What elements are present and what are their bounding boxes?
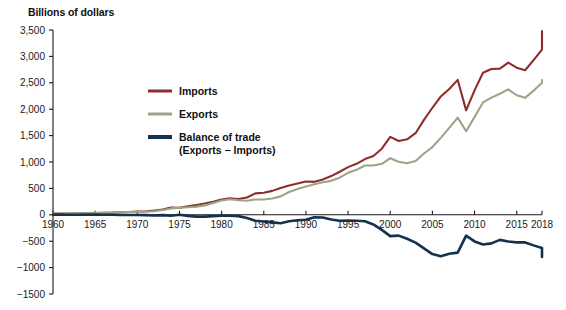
- legend-label: Imports: [179, 85, 218, 97]
- y-axis-tick-label: 1,500: [20, 130, 45, 141]
- legend-sublabel: (Exports − Imports): [179, 144, 276, 156]
- x-axis-tick-label: 2015: [506, 219, 529, 230]
- x-axis-tick-label: 1970: [126, 219, 149, 230]
- series-line-exports: [53, 80, 542, 213]
- y-axis-tick-label: 500: [28, 183, 45, 194]
- x-axis-tick-label: 2000: [379, 219, 402, 230]
- chart-container: Billions of dollars 3,5003,0002,5002,000…: [0, 0, 566, 310]
- x-axis-tick-label: 2005: [421, 219, 444, 230]
- x-axis-tick-label: 1975: [168, 219, 191, 230]
- x-axis-tick-label: 2010: [463, 219, 486, 230]
- y-axis-tick-label: 3,500: [20, 25, 45, 36]
- y-axis-tick-label: −500: [22, 236, 45, 247]
- y-axis-tick-label: −1500: [17, 289, 46, 300]
- y-axis-tick-label: 2,500: [20, 77, 45, 88]
- x-axis-tick-label: 1965: [84, 219, 107, 230]
- y-axis-tick-label: 1,000: [20, 157, 45, 168]
- trade-balance-line-chart: 3,5003,0002,5002,0001,5001,0005000−500−1…: [0, 0, 566, 310]
- y-axis-tick-group: 3,5003,0002,5002,0001,5001,0005000−500−1…: [17, 25, 53, 300]
- y-axis-tick-label: 3,000: [20, 51, 45, 62]
- x-axis-tick-label: 1980: [210, 219, 233, 230]
- series-line-imports: [53, 31, 542, 214]
- chart-legend: ImportsExportsBalance of trade(Exports −…: [148, 85, 276, 156]
- y-axis-tick-label: 2,000: [20, 104, 45, 115]
- x-axis-tick-label: 2018: [531, 219, 554, 230]
- axis-lines: [53, 30, 542, 294]
- y-axis-tick-label: −1000: [17, 262, 46, 273]
- legend-label: Balance of trade: [179, 131, 261, 143]
- legend-label: Exports: [179, 108, 218, 120]
